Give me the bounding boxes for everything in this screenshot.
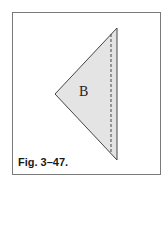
shape-label: B	[79, 84, 88, 100]
figure-caption: Fig. 3–47.	[18, 156, 68, 168]
